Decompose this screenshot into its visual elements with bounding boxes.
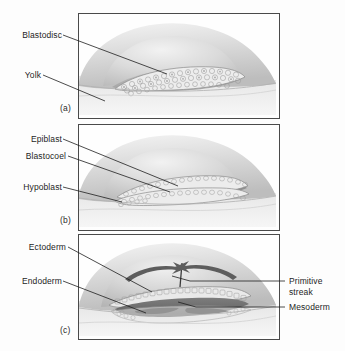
panel-a: [78, 13, 280, 119]
panel-c-illustration: [79, 235, 276, 336]
label-endoderm: Endoderm: [0, 276, 62, 287]
label-yolk: Yolk: [0, 70, 41, 81]
label-blastodisc: Blastodisc: [0, 30, 62, 41]
label-primitive-streak: Primitive streak: [289, 276, 345, 297]
panel-c: [78, 234, 280, 340]
stage-letter-b: (b): [60, 215, 71, 225]
stage-letter-a: (a): [60, 103, 71, 113]
panel-a-illustration: [79, 14, 276, 115]
label-ectoderm: Ectoderm: [0, 242, 66, 253]
stage-letter-c: (c): [60, 325, 71, 335]
gastrulation-figure: Blastodisc Yolk (a) Epiblast Blastocoel …: [0, 0, 345, 351]
label-blastocoel: Blastocoel: [0, 151, 66, 162]
label-epiblast: Epiblast: [0, 134, 62, 145]
label-mesoderm: Mesoderm: [289, 302, 345, 313]
label-primitive-streak-line2: streak: [289, 287, 313, 297]
label-primitive-streak-line1: Primitive: [289, 276, 323, 286]
label-hypoblast: Hypoblast: [0, 182, 62, 193]
panel-b: [78, 124, 280, 231]
panel-b-illustration: [79, 125, 276, 227]
